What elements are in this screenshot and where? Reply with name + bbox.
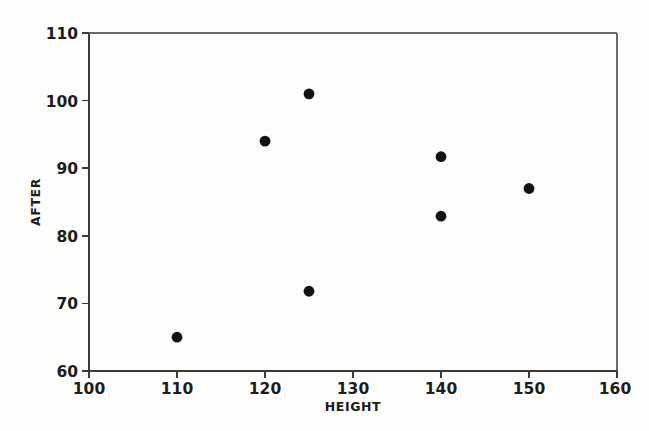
- x-tick-label-100: 100: [73, 380, 106, 398]
- x-axis-title: HEIGHT: [325, 399, 382, 414]
- y-tick-label-60: 60: [56, 363, 78, 381]
- data-point: [172, 332, 183, 343]
- chart-canvas: 60 70 80 90 100 110 100 110 120 130 140 …: [0, 0, 649, 431]
- data-point: [436, 211, 447, 222]
- data-point: [524, 183, 535, 194]
- data-point: [304, 88, 315, 99]
- x-tick-label-120: 120: [249, 380, 282, 398]
- x-tick-label-110: 110: [161, 380, 194, 398]
- y-axis-title: AFTER: [28, 178, 43, 226]
- chart-background: [0, 0, 649, 431]
- data-point: [436, 151, 447, 162]
- y-tick-label-100: 100: [46, 93, 79, 111]
- data-point: [260, 136, 271, 147]
- data-point: [304, 286, 315, 297]
- y-tick-label-90: 90: [56, 160, 78, 178]
- y-tick-label-110: 110: [46, 25, 79, 43]
- y-tick-label-80: 80: [56, 228, 78, 246]
- x-tick-label-150: 150: [513, 380, 546, 398]
- x-tick-label-130: 130: [337, 380, 370, 398]
- x-tick-label-140: 140: [425, 380, 458, 398]
- x-tick-label-160: 160: [599, 380, 632, 398]
- scatter-plot-figure: 60 70 80 90 100 110 100 110 120 130 140 …: [0, 0, 649, 431]
- y-tick-label-70: 70: [56, 295, 78, 313]
